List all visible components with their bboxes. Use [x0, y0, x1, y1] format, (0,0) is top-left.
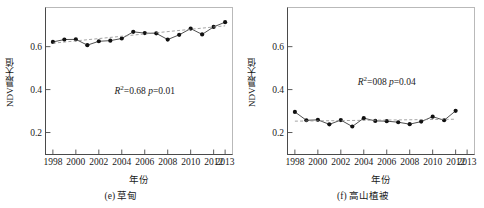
- data-point-marker: 2008: 0.239: [408, 122, 412, 126]
- chart-panel-meadow: NDVI最大值 1998: 0.6221999: 0.6332000: 0.63…: [0, 0, 242, 208]
- series-canvas-meadow: 1998: 0.6221999: 0.6332000: 0.6342001: 0…: [46, 8, 232, 154]
- x-tick-label: 2004: [354, 157, 373, 167]
- stats-annotation: R2=0.68 p=0.01: [115, 84, 175, 96]
- data-point-marker: 2008: 0.633: [166, 37, 170, 41]
- x-tick-label: 2002: [89, 157, 108, 167]
- data-point-marker: 2000: 0.259: [316, 118, 320, 122]
- x-tick-label: 2010: [423, 157, 442, 167]
- data-point-marker: 2004: 0.267: [362, 116, 366, 120]
- data-point-marker: 2002: 0.258: [339, 118, 343, 122]
- data-point-marker: 2001: 0.607: [85, 43, 89, 47]
- plot-area-alpine: 1998: 0.2961999: 0.2572000: 0.2592001: 0…: [287, 7, 475, 155]
- data-point-marker: 2011: 0.257: [442, 118, 446, 122]
- x-tick-label: 1998: [43, 157, 62, 167]
- y-tick-label: 0.2: [30, 128, 42, 138]
- y-axis-title: NDVI最大值: [244, 26, 260, 138]
- y-tick-label: 0.6: [272, 42, 284, 52]
- x-tick-label: 2013: [216, 157, 235, 167]
- stats-annotation: R2=008 p=0.04: [358, 75, 416, 87]
- panel-caption: (e) 草甸: [0, 188, 242, 202]
- data-point-marker: 2005: 0.669: [131, 30, 135, 34]
- x-tick-label: 2004: [112, 157, 131, 167]
- x-tick-label: 2002: [331, 157, 350, 167]
- data-point-marker: 1998: 0.296: [293, 110, 297, 114]
- data-point-marker: 1999: 0.257: [304, 118, 308, 122]
- data-point-marker: 2006: 0.663: [143, 31, 147, 35]
- y-tick-label: 0.4: [30, 85, 42, 95]
- x-tick-label: 2006: [135, 157, 154, 167]
- figure-ndvi-trends: NDVI最大值 1998: 0.6221999: 0.6332000: 0.63…: [0, 0, 484, 208]
- data-point-marker: 1999: 0.633: [62, 37, 66, 41]
- data-point-marker: 2007: 0.662: [154, 31, 158, 35]
- x-tick-label: 2013: [458, 157, 477, 167]
- x-tick-label: 2000: [66, 157, 85, 167]
- y-axis-title: NDVI最大值: [2, 26, 18, 138]
- data-point-marker: 2007: 0.248: [396, 120, 400, 124]
- data-point-marker: 2010: 0.684: [189, 27, 193, 31]
- x-tick-label: 2006: [377, 157, 396, 167]
- x-tick-label: 1998: [285, 157, 304, 167]
- data-line: [53, 22, 225, 45]
- x-tick-label: 2008: [400, 157, 419, 167]
- data-point-marker: 2009: 0.251: [419, 120, 423, 124]
- panel-caption: (f) 高山植被: [242, 188, 484, 202]
- x-tick-label: 2008: [158, 157, 177, 167]
- y-tick-label: 0.2: [272, 128, 284, 138]
- data-point-marker: 2001: 0.238: [327, 122, 331, 126]
- data-point-marker: 2010: 0.274: [431, 115, 435, 119]
- data-point-marker: 2011: 0.657: [200, 32, 204, 36]
- x-axis-title: 年份: [45, 172, 233, 186]
- y-tick-label: 0.6: [30, 42, 42, 52]
- data-point-marker: 2002: 0.625: [97, 39, 101, 43]
- y-tick-label: 0.4: [272, 85, 284, 95]
- data-point-marker: 2003: 0.228: [350, 124, 354, 128]
- x-axis-title: 年份: [287, 172, 475, 186]
- data-point-marker: 2013: 0.714: [223, 20, 227, 24]
- plot-area-meadow: 1998: 0.6221999: 0.6332000: 0.6342001: 0…: [45, 7, 233, 155]
- x-tick-label: 2000: [308, 157, 327, 167]
- chart-panel-alpine: NDVI最大值 1998: 0.2961999: 0.2572000: 0.25…: [242, 0, 484, 208]
- data-point-marker: 2004: 0.638: [120, 36, 124, 40]
- data-point-marker: 2012: 0.301: [454, 109, 458, 113]
- data-point-marker: 2003: 0.628: [108, 39, 112, 43]
- data-point-marker: 2009: 0.655: [177, 33, 181, 37]
- x-tick-label: 2010: [181, 157, 200, 167]
- data-point-marker: 2005: 0.254: [373, 119, 377, 123]
